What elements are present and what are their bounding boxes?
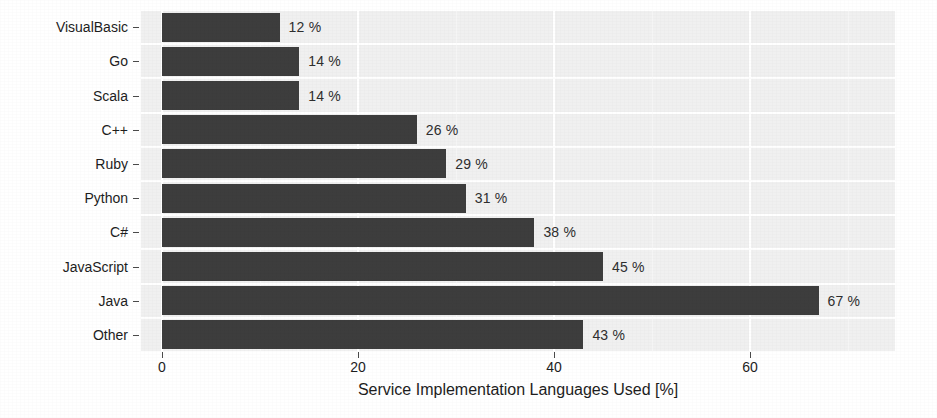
x-axis-tick-mark-20 (358, 352, 359, 358)
y-axis-tick-mark (133, 198, 139, 199)
gridline-major-y (141, 112, 895, 114)
x-axis-tick-label: 40 (546, 360, 562, 374)
gridline-major-y (141, 214, 895, 216)
bar-value-label: 45 % (612, 260, 645, 274)
bar-value-label: 29 % (455, 157, 488, 171)
x-axis-tick-mark-40 (554, 352, 555, 358)
x-axis-tick-label: 60 (742, 360, 758, 374)
bar-go (162, 47, 299, 76)
y-axis-tick-mark (133, 27, 139, 28)
y-axis-tick-mark (133, 301, 139, 302)
bar-value-label: 14 % (308, 54, 341, 68)
gridline-major-y (141, 248, 895, 250)
y-axis-tick-mark (133, 335, 139, 336)
bar-value-label: 43 % (592, 328, 625, 342)
y-axis-tick-mark (133, 267, 139, 268)
gridline-major-y (141, 180, 895, 182)
bar-c (162, 115, 417, 144)
bar-scala (162, 81, 299, 110)
gridline-major-y (141, 146, 895, 148)
gridline-major-y (141, 317, 895, 319)
y-axis-tick-mark (133, 164, 139, 165)
gridline-major-y (141, 10, 895, 11)
x-axis-title: Service Implementation Languages Used [%… (141, 382, 895, 398)
y-axis-tick-mark (133, 96, 139, 97)
bar-value-label: 14 % (308, 89, 341, 103)
gridline-major-y (141, 283, 895, 285)
bar-other (162, 320, 583, 349)
x-axis-tick-label: 0 (158, 360, 166, 374)
y-axis-tick-mark (133, 130, 139, 131)
x-axis-tick-label: 20 (350, 360, 366, 374)
bar-chart-figure: 12 %14 %14 %26 %29 %31 %38 %45 %67 %43 %… (0, 0, 937, 418)
plot-panel: 12 %14 %14 %26 %29 %31 %38 %45 %67 %43 % (141, 10, 895, 352)
bar-python (162, 184, 466, 213)
bar-c (162, 218, 534, 247)
bar-ruby (162, 149, 446, 178)
gridline-major-y (141, 77, 895, 79)
y-axis-tick-marks (0, 10, 141, 352)
bar-value-label: 26 % (426, 123, 459, 137)
x-axis-tick-labels: 0204060 (141, 360, 895, 380)
bar-value-label: 31 % (475, 191, 508, 205)
x-axis-tick-marks (141, 352, 895, 360)
bar-value-label: 12 % (289, 20, 322, 34)
bar-value-label: 38 % (543, 225, 576, 239)
x-axis-tick-mark-60 (750, 352, 751, 358)
x-axis-tick-mark-0 (162, 352, 163, 358)
bar-javascript (162, 252, 603, 281)
y-axis-tick-mark (133, 232, 139, 233)
bar-visualbasic (162, 13, 280, 42)
y-axis-tick-mark (133, 61, 139, 62)
bar-java (162, 286, 819, 315)
bar-value-label: 67 % (828, 294, 861, 308)
gridline-major-y (141, 43, 895, 45)
